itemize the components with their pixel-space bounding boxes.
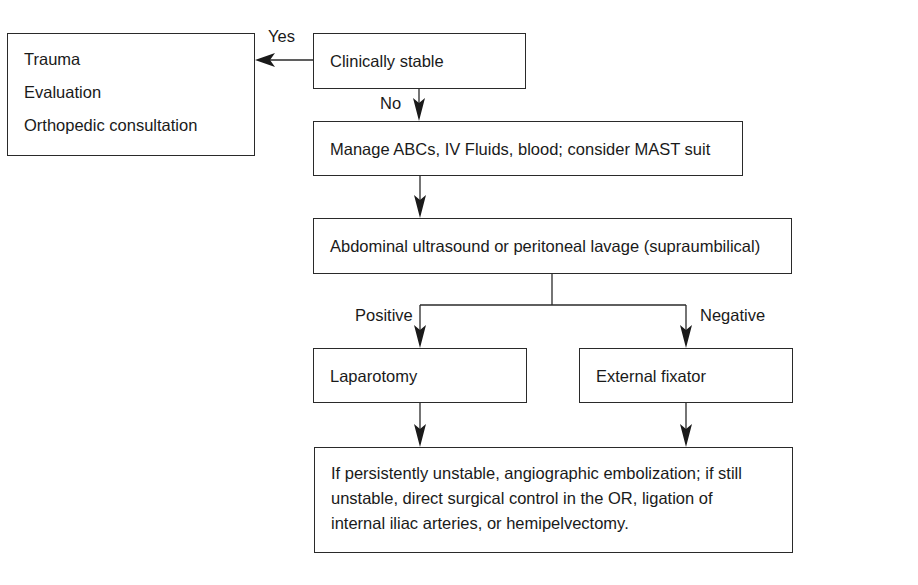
node-line-trauma: Trauma: [24, 43, 197, 76]
node-label: Laparotomy: [330, 368, 417, 385]
node-laparotomy: Laparotomy: [313, 348, 527, 403]
edge-label-negative: Negative: [700, 307, 765, 324]
node-label: External fixator: [596, 368, 706, 385]
edge-manage-abdominal: [414, 175, 426, 218]
edge-laparotomy-final: [414, 402, 426, 447]
node-persistently-unstable: If persistently unstable, angiographic e…: [314, 447, 793, 553]
edge-label-yes: Yes: [268, 28, 295, 45]
edge-abdominal-split: [414, 273, 692, 348]
edge-label-no: No: [380, 95, 401, 112]
node-clinically-stable: Clinically stable: [313, 33, 526, 89]
node-abdominal-ultrasound: Abdominal ultrasound or peritoneal lavag…: [313, 218, 792, 274]
node-line-evaluation: Evaluation: [24, 76, 197, 109]
edge-yes: [255, 53, 313, 67]
node-line-orthopedic-consultation: Orthopedic consultation: [24, 109, 197, 142]
edge-no: [413, 88, 425, 121]
node-trauma-evaluation: Trauma Evaluation Orthopedic consultatio…: [7, 33, 255, 156]
node-external-fixator: External fixator: [579, 348, 793, 403]
node-line-2: unstable, direct surgical control in the…: [331, 486, 742, 511]
node-manage-abcs: Manage ABCs, IV Fluids, blood; consider …: [313, 121, 743, 176]
node-label: Abdominal ultrasound or peritoneal lavag…: [330, 238, 760, 255]
node-label: Clinically stable: [330, 53, 444, 70]
node-line-1: If persistently unstable, angiographic e…: [331, 461, 742, 486]
edge-fixator-final: [680, 402, 692, 447]
node-line-3: internal iliac arteries, or hemipelvecto…: [331, 511, 742, 536]
node-label: Manage ABCs, IV Fluids, blood; consider …: [330, 141, 710, 158]
edge-label-positive: Positive: [355, 307, 413, 324]
